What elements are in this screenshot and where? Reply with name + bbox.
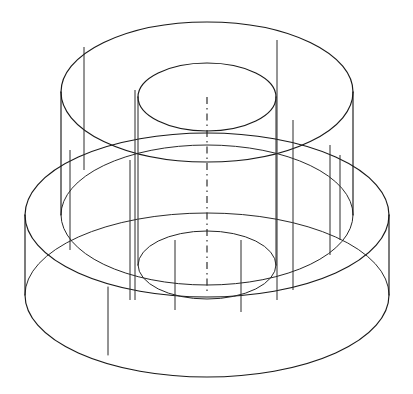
- isometric-drawing-canvas: [0, 0, 413, 394]
- wireframe-svg: [0, 0, 413, 394]
